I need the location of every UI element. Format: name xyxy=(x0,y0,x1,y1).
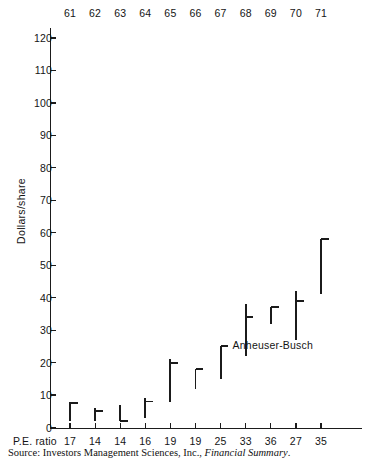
y-axis-tick-label: 90 xyxy=(40,129,52,141)
year-label-70: 70 xyxy=(290,7,302,19)
price-range-bar-66 xyxy=(195,369,197,388)
pe-ratio-value-69: 36 xyxy=(265,435,277,447)
bar-value-tick xyxy=(70,402,78,404)
price-range-bar-71 xyxy=(320,239,322,294)
bar-value-tick xyxy=(95,410,103,412)
year-label-68: 68 xyxy=(240,7,252,19)
bar-stem xyxy=(169,359,171,401)
y-axis-tick xyxy=(51,70,56,71)
y-axis-tick xyxy=(51,297,56,298)
bar-stem xyxy=(119,405,121,421)
year-label-67: 67 xyxy=(215,7,227,19)
y-axis-tick xyxy=(51,200,56,201)
pe-ratio-value-67: 25 xyxy=(215,435,227,447)
pe-ratio-value-64: 16 xyxy=(139,435,151,447)
pe-ratio-value-66: 19 xyxy=(189,435,201,447)
x-axis-tick xyxy=(220,423,221,429)
bar-value-tick xyxy=(171,362,179,364)
bar-stem xyxy=(195,369,197,388)
bar-value-tick xyxy=(221,345,229,347)
y-axis-tick-label: 40 xyxy=(40,292,52,304)
bar-value-tick xyxy=(146,401,154,403)
x-axis-tick xyxy=(245,423,246,429)
bar-stem xyxy=(270,307,272,323)
y-axis-tick xyxy=(51,135,56,136)
x-axis-tick xyxy=(295,423,296,429)
pe-ratio-value-65: 19 xyxy=(164,435,176,447)
year-label-69: 69 xyxy=(265,7,277,19)
bar-value-tick xyxy=(246,316,254,318)
y-axis-tick xyxy=(51,37,56,38)
y-axis-tick-label: 50 xyxy=(40,259,52,271)
x-axis-tick xyxy=(195,423,196,429)
x-axis-tick xyxy=(120,423,121,429)
bar-value-tick xyxy=(120,420,128,422)
bar-value-tick xyxy=(296,300,304,302)
year-label-63: 63 xyxy=(114,7,126,19)
price-range-bar-63 xyxy=(119,405,121,421)
bar-stem xyxy=(220,346,222,378)
y-axis-tick xyxy=(51,167,56,168)
series-annotation-label: Anheuser-Busch xyxy=(233,339,313,351)
pe-ratio-value-62: 14 xyxy=(89,435,101,447)
price-range-bar-65 xyxy=(169,359,171,401)
pe-ratio-value-70: 27 xyxy=(290,435,302,447)
year-label-66: 66 xyxy=(189,7,201,19)
x-axis-line xyxy=(50,428,362,429)
pe-ratio-value-63: 14 xyxy=(114,435,126,447)
x-axis-tick xyxy=(270,423,271,429)
price-range-bar-69 xyxy=(270,307,272,323)
pe-ratio-value-61: 17 xyxy=(64,435,76,447)
y-axis-tick-label: 30 xyxy=(40,324,52,336)
x-axis-tick xyxy=(170,423,171,429)
y-axis-tick xyxy=(51,102,56,103)
year-label-64: 64 xyxy=(139,7,151,19)
price-range-bar-64 xyxy=(144,398,146,417)
y-axis-tick-label: 110 xyxy=(35,64,52,76)
y-axis-tick-label: 20 xyxy=(40,357,52,369)
y-axis-tick xyxy=(51,232,56,233)
y-axis-tick xyxy=(51,362,56,363)
bar-value-tick xyxy=(321,238,329,240)
bar-stem xyxy=(295,291,297,340)
y-axis-tick-label: 10 xyxy=(40,389,52,401)
pe-ratio-caption: P.E. ratio xyxy=(13,435,57,447)
source-note: Source: Investors Management Sciences, I… xyxy=(8,447,290,458)
x-axis-tick xyxy=(320,423,321,429)
year-label-65: 65 xyxy=(164,7,176,19)
x-axis-tick xyxy=(69,423,70,429)
pe-ratio-value-71: 35 xyxy=(315,435,327,447)
year-label-71: 71 xyxy=(315,7,327,19)
y-axis-tick xyxy=(51,330,56,331)
bar-value-tick xyxy=(196,368,204,370)
price-range-bar-61 xyxy=(69,402,71,421)
year-label-62: 62 xyxy=(89,7,101,19)
y-axis-tick-label: 0 xyxy=(46,422,52,434)
chart-canvas: Dollars/share 01020304050607080901001101… xyxy=(0,0,366,460)
bar-stem xyxy=(320,239,322,294)
x-axis-tick xyxy=(145,423,146,429)
y-axis-title: Dollars/share xyxy=(15,166,27,256)
year-label-61: 61 xyxy=(64,7,76,19)
bar-value-tick xyxy=(271,306,279,308)
y-axis-tick xyxy=(51,265,56,266)
y-axis-tick xyxy=(51,427,56,428)
price-range-bar-67 xyxy=(220,346,222,378)
price-range-bar-62 xyxy=(94,408,96,421)
y-axis-tick xyxy=(51,394,56,395)
pe-ratio-value-68: 33 xyxy=(240,435,252,447)
y-axis-tick-label: 100 xyxy=(34,97,52,109)
y-axis-tick-label: 70 xyxy=(40,194,52,206)
price-range-bar-70 xyxy=(295,291,297,340)
x-axis-tick xyxy=(95,423,96,429)
y-axis-tick-label: 80 xyxy=(40,162,52,174)
y-axis-tick-label: 120 xyxy=(34,32,52,44)
y-axis-tick-label: 60 xyxy=(40,227,52,239)
bar-stem xyxy=(69,402,71,421)
